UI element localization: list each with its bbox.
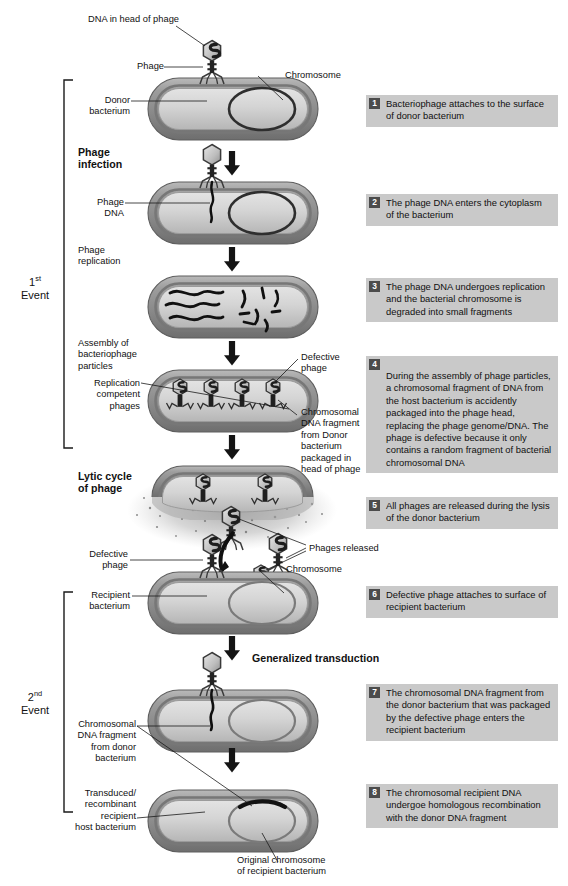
- cell-assembly: [148, 370, 318, 432]
- part-label-donor-bacterium: Donor bacterium: [72, 95, 130, 118]
- step-callout-6: 6 Defective phage attaches to surface of…: [366, 586, 558, 618]
- step-callout-1: 1 Bacteriophage attaches to the surface …: [366, 95, 558, 127]
- flow-arrow-1: [224, 151, 240, 176]
- step-text-4: During the assembly of phage particles, …: [386, 370, 552, 469]
- part-label-original-chromosome: Original chromosome of recipient bacteri…: [237, 855, 326, 878]
- step-text-5: All phages are released during the lysis…: [386, 500, 552, 525]
- figure-canvas: 1st Event 2nd Event Phage infection Phag…: [0, 0, 568, 886]
- event-label-2: 2nd Event: [8, 687, 62, 717]
- flow-arrow-5: [224, 636, 240, 661]
- bracket-event-2: [64, 592, 73, 812]
- part-label-phages-released: Phages released: [309, 543, 379, 554]
- event-label-1: 1st Event: [8, 272, 62, 302]
- step-text-2: The phage DNA enters the cytoplasm of th…: [386, 197, 552, 222]
- stage-label-assembly: Assembly of bacteriophage particles: [78, 338, 137, 372]
- part-label-chromosomal-fragment-donor: Chromosomal DNA fragment from Donor bact…: [301, 407, 360, 475]
- part-label-recipient-bacterium: Recipient bacterium: [62, 590, 130, 613]
- step-badge-7: 7: [369, 687, 380, 698]
- stage-label-phage-infection: Phage infection: [78, 146, 122, 171]
- cell-fragment-entering: [148, 653, 318, 753]
- part-label-dna-in-head: DNA in head of phage: [88, 14, 179, 25]
- step-badge-8: 8: [369, 787, 380, 798]
- flow-arrow-3: [224, 341, 240, 366]
- part-label-defective-phage-1: Defective phage: [301, 352, 340, 375]
- part-label-chromosome-2: Chromosome: [286, 564, 342, 575]
- step-callout-7: 7 The chromosomal DNA fragment from the …: [366, 684, 558, 741]
- step-badge-5: 5: [369, 500, 380, 511]
- step-callout-3: 3 The phage DNA undergoes replication an…: [366, 278, 558, 322]
- step-callout-8: 8 The chromosomal recipient DNA undergoe…: [366, 784, 558, 828]
- flow-arrow-4: [224, 435, 240, 460]
- step-text-7: The chromosomal DNA fragment from the do…: [386, 687, 552, 737]
- step-badge-1: 1: [369, 98, 380, 109]
- part-label-chromosomal-fragment-donor-2: Chromosomal DNA fragment from donor bact…: [48, 719, 136, 765]
- stage-label-generalized-transduction: Generalized transduction: [252, 652, 379, 664]
- part-label-chromosome-1: Chromosome: [285, 70, 341, 81]
- part-label-phage: Phage: [108, 61, 164, 72]
- step-callout-2: 2 The phage DNA enters the cytoplasm of …: [366, 194, 558, 226]
- part-label-phage-dna: Phage DNA: [78, 197, 124, 220]
- cell-donor-attached: [148, 41, 318, 141]
- cell-recombinant: [148, 790, 318, 852]
- step-text-8: The chromosomal recipient DNA undergoe h…: [386, 787, 552, 824]
- step-badge-4: 4: [369, 359, 380, 370]
- step-badge-6: 6: [369, 589, 380, 600]
- stage-label-phage-replication: Phage replication: [78, 245, 120, 268]
- step-badge-3: 3: [369, 281, 380, 292]
- flow-arrow-2: [224, 247, 240, 272]
- step-badge-2: 2: [369, 197, 380, 208]
- step-text-6: Defective phage attaches to surface of r…: [386, 589, 552, 614]
- cell-replication: [148, 276, 318, 338]
- step-text-1: Bacteriophage attaches to the surface of…: [386, 98, 552, 123]
- part-label-replication-competent: Replication competent phages: [62, 378, 140, 412]
- part-label-defective-phage-2: Defective phage: [66, 549, 128, 572]
- part-label-transduced-recombinant: Transduced/ recombinant recipient host b…: [48, 788, 136, 834]
- step-text-3: The phage DNA undergoes replication and …: [386, 281, 552, 318]
- stage-label-lytic-cycle: Lytic cycle of phage: [78, 470, 132, 495]
- step-callout-5: 5 All phages are released during the lys…: [366, 497, 558, 529]
- step-callout-4: 4 During the assembly of phage particles…: [366, 356, 558, 473]
